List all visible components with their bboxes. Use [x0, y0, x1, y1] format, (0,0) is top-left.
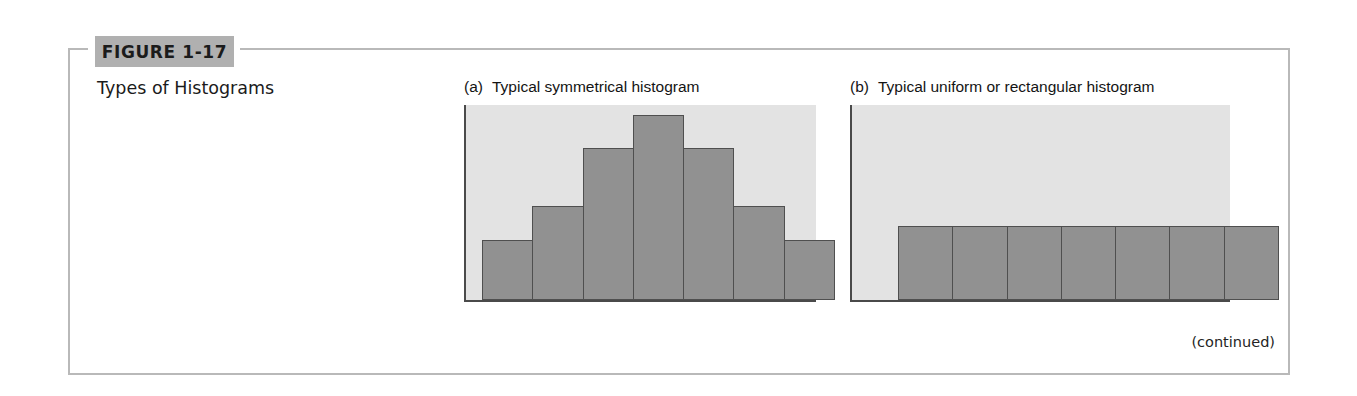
- panel-a: (a) Typical symmetrical histogram: [464, 78, 816, 300]
- histogram-bar: [683, 148, 734, 300]
- histogram-bar: [784, 240, 835, 300]
- figure-title: Types of Histograms: [97, 78, 274, 98]
- histogram-bar: [952, 226, 1007, 300]
- histogram-b-bars: [850, 105, 1306, 300]
- histogram-bar: [1169, 226, 1224, 300]
- histogram-bar: [1007, 226, 1062, 300]
- histogram-a-bars: [464, 105, 856, 300]
- histogram-b-x-axis: [850, 300, 1230, 302]
- histogram-bar: [1115, 226, 1170, 300]
- panel-a-caption: (a) Typical symmetrical histogram: [464, 78, 816, 96]
- panel-b-caption: (b) Typical uniform or rectangular histo…: [850, 78, 1230, 96]
- figure-label: FIGURE 1-17: [102, 42, 227, 62]
- figure-label-band: FIGURE 1-17: [95, 36, 234, 67]
- histogram-bar: [733, 206, 784, 300]
- histogram-bar: [482, 240, 533, 300]
- histogram-a-x-axis: [464, 300, 816, 302]
- histogram-bar: [898, 226, 953, 300]
- panel-b-marker: (b): [850, 78, 869, 96]
- histogram-a-plot: [464, 105, 816, 300]
- histogram-b-plot: [850, 105, 1230, 300]
- histogram-bar: [583, 148, 634, 300]
- histogram-bar: [1224, 226, 1279, 300]
- histogram-bar: [633, 115, 684, 300]
- histogram-bar: [532, 206, 583, 300]
- panel-a-marker: (a): [464, 78, 483, 96]
- continued-note: (continued): [1191, 334, 1275, 350]
- panel-b: (b) Typical uniform or rectangular histo…: [850, 78, 1230, 300]
- histogram-bar: [1061, 226, 1116, 300]
- panel-b-caption-text: Typical uniform or rectangular histogram: [878, 78, 1155, 96]
- panel-a-caption-text: Typical symmetrical histogram: [492, 78, 700, 96]
